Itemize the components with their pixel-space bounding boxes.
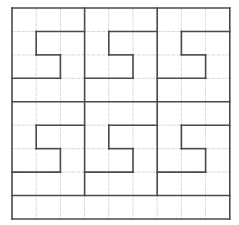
- grid-lines: [12, 8, 230, 219]
- grid-diagram: [0, 0, 239, 225]
- grid-puzzle-figure: [0, 0, 239, 225]
- region-boundaries: [12, 8, 230, 219]
